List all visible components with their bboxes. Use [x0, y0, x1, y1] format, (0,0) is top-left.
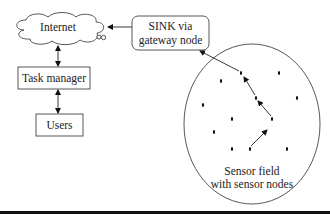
internet-cloud: Internet	[17, 13, 106, 45]
hop-arrow-3	[244, 77, 255, 95]
sink-label-line1: SINK via	[149, 20, 193, 32]
task-manager-label: Task manager	[22, 72, 86, 85]
sensor-node	[231, 147, 233, 151]
sensor-node	[231, 117, 233, 121]
sensor-node	[278, 71, 280, 75]
sensor-node	[202, 103, 204, 107]
hop-arrow-1	[251, 130, 267, 146]
sensor-node	[213, 130, 215, 134]
users-label: Users	[46, 119, 73, 131]
sensor-node	[271, 117, 273, 121]
sensor-field-label-line2: with sensor nodes	[211, 178, 294, 190]
internet-label: Internet	[40, 21, 77, 33]
sink-gateway-node: SINK via gateway node	[132, 16, 209, 50]
sensor-node	[220, 79, 222, 83]
sensor-node	[296, 96, 298, 100]
network-diagram: Internet SINK via gateway node Task mana…	[0, 0, 330, 214]
sensor-node	[240, 71, 242, 75]
sensor-nodes	[202, 71, 298, 151]
sensor-node	[286, 147, 288, 151]
sensor-field: Sensor field with sensor nodes	[184, 44, 320, 204]
sensor-field-label-line1: Sensor field	[224, 165, 280, 177]
hop-arrow-2	[258, 101, 271, 116]
sensor-node	[255, 96, 257, 100]
sensor-node	[249, 147, 251, 151]
task-manager-node: Task manager	[18, 67, 90, 89]
bottom-divider	[0, 211, 330, 214]
sink-label-line2: gateway node	[139, 34, 203, 47]
users-node: Users	[36, 114, 83, 136]
